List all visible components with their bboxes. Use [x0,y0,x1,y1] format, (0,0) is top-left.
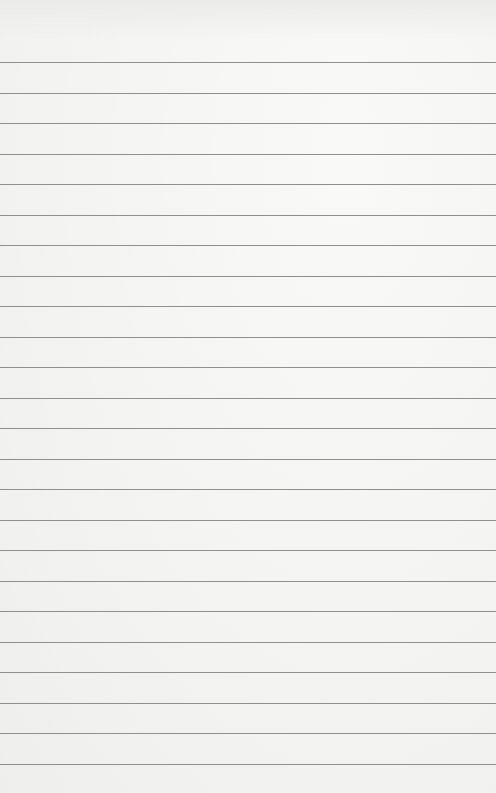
ruled-line [0,489,496,490]
ruled-line [0,428,496,429]
ruled-line [0,581,496,582]
ruled-line [0,520,496,521]
ruled-line [0,215,496,216]
top-shadow [0,0,496,40]
ruled-line [0,154,496,155]
ruled-line [0,764,496,765]
ruled-line [0,337,496,338]
ruled-line [0,62,496,63]
ruled-line [0,367,496,368]
ruled-line [0,93,496,94]
lined-paper-sheet [0,0,496,793]
ruled-line [0,672,496,673]
ruled-line [0,276,496,277]
ruled-line [0,245,496,246]
ruled-line [0,703,496,704]
ruled-line [0,398,496,399]
ruled-line [0,306,496,307]
ruled-line [0,123,496,124]
ruled-line [0,459,496,460]
ruled-line [0,733,496,734]
ruled-line [0,184,496,185]
ruled-line [0,611,496,612]
ruled-line [0,550,496,551]
ruled-line [0,642,496,643]
